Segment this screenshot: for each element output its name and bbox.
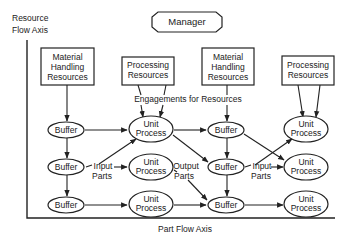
unit-process-node: Unit Process xyxy=(129,154,173,180)
buffer-node: Buffer xyxy=(48,197,84,213)
buffer-label: Buffer xyxy=(55,200,78,210)
manager-node: Manager xyxy=(152,12,222,32)
annotation-line: Input xyxy=(253,161,273,171)
unit-process-label-line: Process xyxy=(136,166,167,176)
buffer-node: Buffer xyxy=(48,159,84,175)
buffer-label: Buffer xyxy=(55,162,78,172)
unit-process-node: Unit Process xyxy=(129,116,173,142)
box-label-line: Handling xyxy=(51,62,85,72)
buffer-node: Buffer xyxy=(48,122,84,138)
buffer-node: Buffer xyxy=(208,197,244,213)
box-label-line: Processing xyxy=(287,60,329,70)
resource-flow-label-line2: Flow Axis xyxy=(12,25,48,35)
buffer-node: Buffer xyxy=(208,159,244,175)
annotation-line: Parts xyxy=(92,171,112,181)
resource-flow-axis-label: Resource Flow Axis xyxy=(12,13,49,35)
part-flow-axis-label: Part Flow Axis xyxy=(158,224,212,234)
box-label-line: Material xyxy=(213,52,243,62)
unit-process-label-line: Process xyxy=(291,128,322,138)
box-label-line: Resources xyxy=(288,70,329,80)
processing-resources-1: Processing Resources xyxy=(122,57,174,85)
unit-process-label-line: Process xyxy=(291,203,322,213)
box-label-line: Handling xyxy=(211,62,245,72)
unit-process-node: Unit Process xyxy=(129,191,173,217)
resource-flow-label-line1: Resource xyxy=(12,13,49,23)
manufacturing-flow-diagram: Resource Flow Axis Part Flow Axis Manage… xyxy=(0,0,355,241)
buffer-label: Buffer xyxy=(215,200,238,210)
box-label-line: Resources xyxy=(208,72,249,82)
material-handling-resources-2: Material Handling Resources xyxy=(202,48,254,85)
unit-process-node: Unit Process xyxy=(284,191,328,217)
engagements-label: Engagements for Resources xyxy=(134,94,242,104)
annotation-line: Parts xyxy=(174,171,194,181)
manager-label: Manager xyxy=(168,16,206,27)
output-parts-annotation: Output Parts xyxy=(173,161,199,181)
buffer-label: Buffer xyxy=(215,125,238,135)
processing-resources-2: Processing Resources xyxy=(282,56,334,85)
box-label-line: Resources xyxy=(47,72,88,82)
buffer-node: Buffer xyxy=(208,122,244,138)
input-parts-annotation-1: Input Parts xyxy=(92,161,113,181)
material-handling-resources-1: Material Handling Resources xyxy=(41,48,94,85)
annotation-line: Parts xyxy=(251,171,271,181)
input-parts-annotation-2: Input Parts xyxy=(251,161,272,181)
buffer-label: Buffer xyxy=(215,162,238,172)
box-label-line: Processing xyxy=(127,60,169,70)
buffer-label: Buffer xyxy=(55,125,78,135)
annotation-line: Input xyxy=(94,161,114,171)
unit-process-label-line: Process xyxy=(291,166,322,176)
annotation-line: Output xyxy=(173,161,199,171)
unit-process-label-line: Process xyxy=(136,203,167,213)
box-label-line: Resources xyxy=(128,70,169,80)
box-label-line: Material xyxy=(52,52,82,62)
unit-process-node: Unit Process xyxy=(284,154,328,180)
unit-process-node: Unit Process xyxy=(284,116,328,142)
unit-process-label-line: Process xyxy=(136,128,167,138)
